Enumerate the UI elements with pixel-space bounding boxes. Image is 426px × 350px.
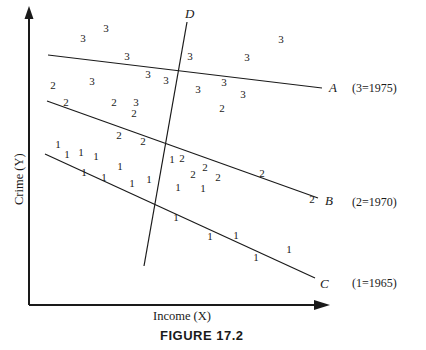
data-point-marker: 1 [253, 251, 259, 263]
trend-line-b [47, 101, 318, 198]
data-point-marker: 3 [244, 51, 250, 63]
legend-entry-1975-text: (3=1975) [352, 81, 397, 95]
data-point-marker: 1 [64, 148, 70, 160]
data-point-marker: 1 [93, 150, 99, 162]
data-point-marker: 1 [78, 146, 84, 158]
legend-entry-1970-text: (2=1970) [352, 195, 397, 209]
data-point-marker: 2 [202, 161, 208, 173]
data-point-marker: 3 [240, 88, 246, 100]
data-point-marker: 2 [215, 171, 221, 183]
y-axis-title-text: Crime (Y) [12, 153, 26, 205]
data-point-marker: 1 [55, 138, 61, 150]
x-axis-arrowhead [314, 300, 330, 310]
y-axis-arrowhead [25, 6, 34, 19]
data-point-marker: 1 [200, 182, 206, 194]
data-point-marker: 3 [124, 50, 130, 62]
legend-entry-1970: (2=1970) [352, 195, 397, 210]
legend-entry-1965: (1=1965) [352, 276, 397, 291]
trend-lines-group [45, 22, 322, 278]
legend-entry-1965-text: (1=1965) [352, 276, 397, 290]
figure-caption-text: FIGURE 17.2 [160, 328, 244, 343]
data-point-marker: 2 [179, 152, 185, 164]
trend-line-d [144, 22, 187, 266]
y-axis-title: Crime (Y) [12, 153, 27, 205]
data-point-marker: 3 [145, 68, 151, 80]
legend-entry-1975: (3=1975) [352, 81, 397, 96]
data-point-marker: 1 [286, 243, 292, 255]
data-point-marker: 3 [278, 33, 284, 45]
scatter-plot: A B C D 3333333333333 2222222222222 1111… [0, 0, 426, 350]
data-point-marker: 1 [207, 230, 213, 242]
data-point-marker: 3 [163, 74, 169, 86]
data-point-marker: 1 [169, 153, 175, 165]
data-point-marker: 1 [129, 177, 135, 189]
data-point-marker: 3 [195, 83, 201, 95]
data-point-marker: 3 [89, 75, 95, 87]
data-point-marker: 2 [111, 96, 117, 108]
data-point-marker: 3 [80, 32, 86, 44]
x-axis-title-text: Income (X) [153, 309, 211, 323]
data-point-marker: 3 [187, 50, 193, 62]
data-point-marker: 3 [221, 76, 227, 88]
data-points-1970: 2222222222222 [50, 79, 315, 205]
figure-17-2: A B C D 3333333333333 2222222222222 1111… [0, 0, 426, 350]
data-point-marker: 3 [103, 22, 109, 34]
data-point-marker: 2 [131, 107, 137, 119]
data-point-marker: 2 [190, 168, 196, 180]
x-axis-title: Income (X) [153, 309, 211, 324]
line-label-d: D [184, 6, 195, 21]
data-point-marker: 1 [101, 171, 107, 183]
data-point-marker: 2 [63, 96, 69, 108]
data-point-marker: 1 [117, 160, 123, 172]
line-label-b: B [325, 193, 333, 208]
data-point-marker: 2 [50, 79, 56, 91]
figure-caption: FIGURE 17.2 [160, 328, 244, 343]
line-label-c: C [320, 276, 329, 291]
data-point-marker: 2 [309, 193, 315, 205]
data-point-marker: 2 [140, 135, 146, 147]
data-point-marker: 1 [175, 181, 181, 193]
data-points-1965: 11111111111111111 [55, 138, 292, 263]
data-point-marker: 1 [173, 211, 179, 223]
data-point-marker: 2 [116, 129, 122, 141]
data-point-marker: 1 [146, 173, 152, 185]
data-point-marker: 1 [81, 166, 87, 178]
line-label-a: A [328, 80, 337, 95]
data-point-marker: 1 [233, 229, 239, 241]
data-point-marker: 2 [259, 167, 265, 179]
data-point-marker: 2 [219, 102, 225, 114]
